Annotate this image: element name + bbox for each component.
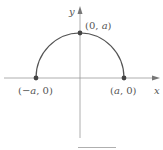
semicircle-diagram: y x (−a, 0) (a, 0) (0, a) — [0, 0, 163, 150]
point-right-label: (a, 0) — [110, 85, 137, 96]
point-top — [78, 31, 83, 36]
x-axis-label: x — [154, 85, 160, 96]
point-left — [34, 76, 39, 81]
point-left-label: (−a, 0) — [18, 85, 53, 96]
point-top-label: (0, a) — [85, 20, 112, 31]
x-axis-arrow-icon — [152, 76, 160, 81]
y-axis-arrow-icon — [78, 6, 83, 14]
point-right — [122, 76, 127, 81]
y-axis-label: y — [68, 6, 75, 17]
